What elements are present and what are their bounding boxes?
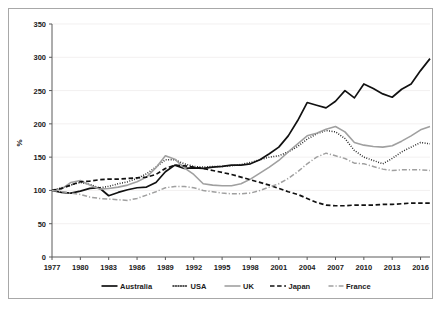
x-tick-label: 1986	[129, 263, 146, 272]
y-tick-label: 250	[33, 87, 46, 96]
line-chart: 050100150200250300350 197719801983198619…	[0, 0, 443, 309]
x-tick-label: 1983	[100, 263, 117, 272]
x-tick-label: 1977	[44, 263, 61, 272]
chart-canvas: 050100150200250300350 197719801983198619…	[0, 0, 443, 309]
x-tick-label: 2004	[299, 263, 317, 272]
legend-label-usa: USA	[191, 282, 207, 291]
y-axis-title: %	[15, 139, 24, 146]
series-line-japan	[52, 165, 430, 206]
y-tick-label: 200	[33, 120, 46, 129]
x-axis: 1977198019831986198919921995199820012004…	[44, 257, 430, 272]
y-tick-label: 50	[38, 220, 46, 229]
y-tick-label: 300	[33, 53, 46, 62]
x-tick-label: 1980	[72, 263, 89, 272]
legend-label-uk: UK	[243, 282, 254, 291]
x-tick-label: 2001	[270, 263, 287, 272]
y-tick-label: 100	[33, 186, 46, 195]
legend-label-australia: Australia	[120, 282, 153, 291]
x-tick-label: 1998	[242, 263, 259, 272]
y-tick-label: 150	[33, 153, 46, 162]
gridlines	[52, 24, 430, 224]
chart-legend: AustraliaUSAUKJapanFrance	[102, 282, 371, 291]
x-tick-label: 1992	[185, 263, 202, 272]
x-tick-label: 2013	[384, 263, 401, 272]
legend-label-france: France	[346, 282, 371, 291]
y-tick-label: 0	[42, 253, 46, 262]
x-tick-label: 2010	[356, 263, 373, 272]
x-tick-label: 1989	[157, 263, 174, 272]
x-tick-label: 2007	[327, 263, 344, 272]
y-axis: 050100150200250300350	[33, 20, 52, 262]
legend-label-japan: Japan	[289, 282, 311, 291]
x-tick-label: 1995	[214, 263, 231, 272]
y-tick-label: 350	[33, 20, 46, 29]
x-tick-label: 2016	[412, 263, 429, 272]
series-line-uk	[52, 127, 430, 191]
series-line-australia	[52, 59, 430, 196]
series-line-usa	[52, 131, 430, 191]
data-series-group	[52, 59, 430, 206]
